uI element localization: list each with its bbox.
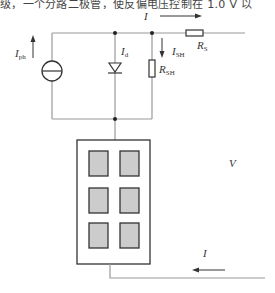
- label-i-top: I: [144, 11, 148, 22]
- label-rsh: RSH: [159, 64, 175, 77]
- shunt-resistor-icon: [149, 60, 155, 77]
- node-top-diode: [113, 31, 117, 35]
- label-id: Id: [121, 46, 128, 59]
- node-bottom-diode: [113, 117, 117, 121]
- top-current-arrow-icon: [160, 14, 202, 19]
- bottom-current-arrow-icon: [192, 268, 225, 273]
- panel-bottom-wire: [110, 264, 265, 278]
- label-ish: ISH: [172, 46, 185, 59]
- label-iph: Iph: [15, 48, 26, 61]
- iph-arrow-icon: [31, 35, 36, 58]
- ish-arrow-icon: [160, 38, 165, 58]
- circuit-diagram: [0, 0, 275, 293]
- label-v: V: [229, 158, 236, 169]
- series-resistor-icon: [186, 30, 203, 36]
- label-i-bottom: I: [203, 248, 207, 259]
- pv-panel-icon: [77, 140, 150, 264]
- current-source-icon: [42, 61, 62, 81]
- label-rs: RS: [197, 40, 208, 53]
- node-top-shunt: [150, 31, 154, 35]
- diode-icon: [108, 63, 122, 73]
